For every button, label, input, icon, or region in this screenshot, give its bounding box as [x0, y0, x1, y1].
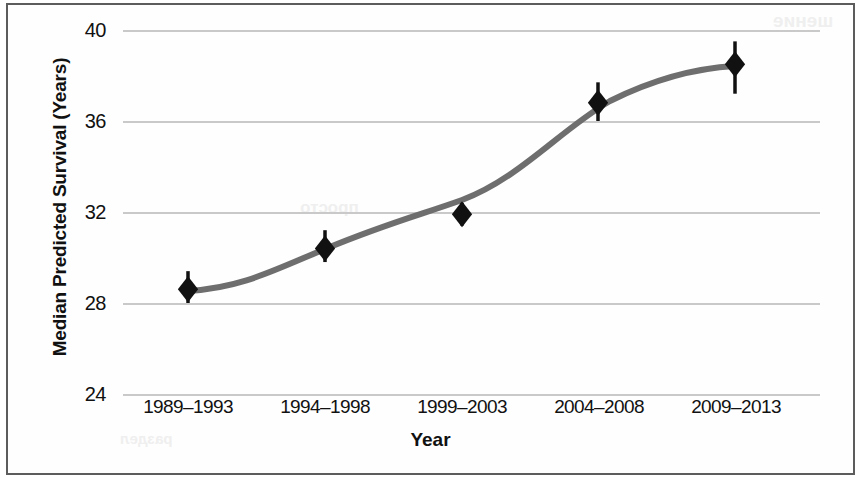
x-axis-title: Year [0, 429, 861, 451]
figure-container: шение просто раздел Median Predicted Sur… [0, 0, 861, 481]
data-point-marker [178, 276, 198, 302]
x-tick-label-1989-1993: 1989–1993 [108, 396, 268, 418]
fitted-trend-curve [188, 66, 735, 291]
data-point-marker [725, 51, 745, 77]
x-tick-label-1999-2003: 1999–2003 [382, 396, 542, 418]
x-tick-label-2009-2013: 2009–2013 [656, 396, 816, 418]
x-tick-label-1994-1998: 1994–1998 [245, 396, 405, 418]
plot-area: Median Predicted Survival (Years) 40 36 … [0, 0, 861, 481]
data-point-marker [315, 235, 335, 261]
x-tick-label-2004-2008: 2004–2008 [519, 396, 679, 418]
